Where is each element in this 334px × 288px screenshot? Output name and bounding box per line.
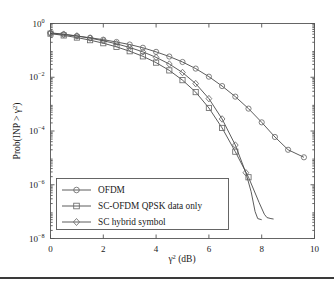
chart-canvas: OFDMSC-OFDM QPSK data onlySC hybrid symb…: [0, 0, 334, 288]
legend-label-2[interactable]: SC hybrid symbol: [98, 217, 166, 227]
y-tick-label: 10−6: [29, 178, 45, 190]
x-tick-labels: 0246810: [48, 244, 319, 254]
y-tick-labels: 10010−210−410−610−8: [29, 17, 45, 244]
y-axis-title: Prob(INP > γ2): [11, 103, 24, 160]
legend-label-1[interactable]: SC-OFDM QPSK data only: [98, 201, 202, 211]
y-tick-label: 100: [32, 17, 44, 29]
y-tick-label: 10−4: [29, 124, 45, 136]
legend-label-0[interactable]: OFDM: [98, 185, 125, 195]
x-tick-label: 10: [310, 244, 320, 254]
x-tick-label: 8: [259, 244, 264, 254]
footer-divider: [0, 277, 334, 279]
x-tick-label: 0: [48, 244, 53, 254]
x-tick-label: 2: [101, 244, 106, 254]
x-tick-label: 4: [154, 244, 159, 254]
series-line-circle: [51, 33, 304, 157]
figure-container: OFDMSC-OFDM QPSK data onlySC hybrid symb…: [0, 0, 334, 288]
x-axis-title: γ2 (dB): [167, 253, 195, 266]
y-tick-label: 10−8: [29, 232, 45, 244]
chart-legend[interactable]: OFDMSC-OFDM QPSK data onlySC hybrid symb…: [57, 179, 229, 230]
y-tick-label: 10−2: [29, 70, 45, 82]
x-tick-label: 6: [207, 244, 212, 254]
